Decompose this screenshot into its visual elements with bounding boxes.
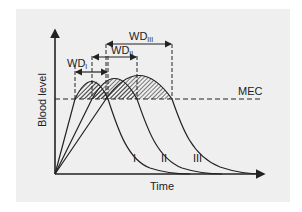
x-axis-label: Time [150, 180, 174, 192]
y-axis-label: Blood level [36, 73, 48, 127]
curve-iii-label: III [193, 152, 202, 164]
curve-ii-label: II [161, 152, 167, 164]
blood-level-diagram: WDI WDII WDIII MEC I II III Blood level … [0, 0, 302, 212]
wd-iii-label: WDIII [129, 30, 153, 43]
curve-i-label: I [133, 152, 136, 164]
wd-ii-label: WDII [111, 44, 133, 57]
mec-label: MEC [238, 85, 263, 97]
wd-i-label: WDI [67, 57, 87, 70]
